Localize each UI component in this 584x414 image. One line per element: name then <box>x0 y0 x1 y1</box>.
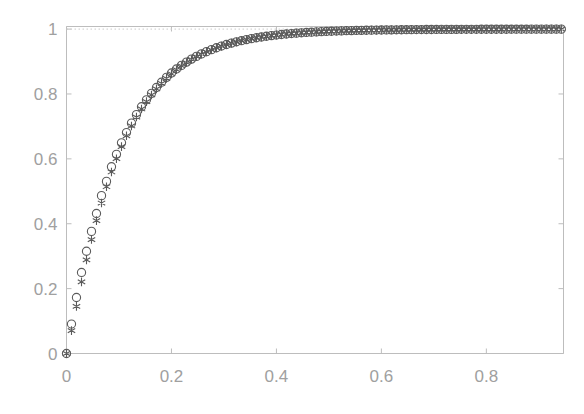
series-asterisk-markers <box>63 25 565 358</box>
x-tick-label: 0 <box>62 368 71 385</box>
data-point-asterisk <box>108 168 115 177</box>
data-point-asterisk <box>103 182 110 191</box>
data-point-asterisk <box>83 256 90 265</box>
data-point-circle <box>97 192 105 200</box>
plot-area <box>0 0 584 414</box>
data-point-circle <box>72 293 80 301</box>
data-point-asterisk <box>73 302 80 311</box>
x-tick-label: 0.6 <box>370 368 394 385</box>
series-circle-markers <box>62 25 565 358</box>
y-tick-label: 0.4 <box>34 215 58 232</box>
y-tick-label: 0.8 <box>34 85 58 102</box>
x-tick-label: 0.4 <box>265 368 289 385</box>
data-point-circle <box>92 209 100 217</box>
y-tick-label: 0.6 <box>34 150 58 167</box>
data-point-asterisk <box>88 235 95 244</box>
x-tick-label: 0.2 <box>160 368 184 385</box>
data-point-asterisk <box>143 97 150 106</box>
data-point-circle <box>82 247 90 255</box>
y-tick-label: 1 <box>48 21 57 38</box>
data-point-circle <box>77 268 85 276</box>
axis-ticks <box>67 27 564 354</box>
figure-canvas: 00.20.40.60.8 00.20.40.60.81 <box>0 0 584 414</box>
y-tick-label: 0.2 <box>34 280 58 297</box>
data-point-asterisk <box>78 278 85 287</box>
axes-frame <box>67 27 564 354</box>
y-tick-label: 0 <box>48 345 57 362</box>
data-point-circle <box>87 227 95 235</box>
x-tick-label: 0.8 <box>475 368 499 385</box>
axes-box <box>67 27 564 354</box>
